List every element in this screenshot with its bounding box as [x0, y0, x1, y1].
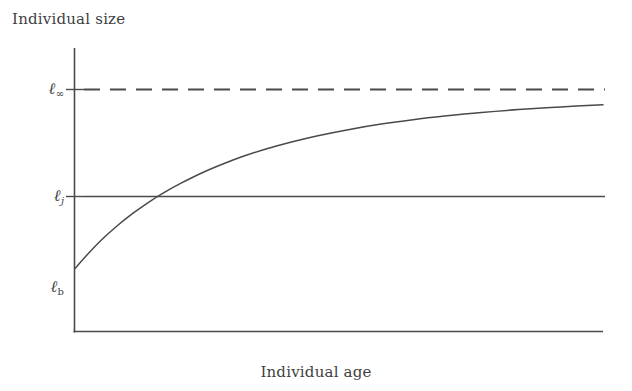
- growth-curve-figure: Individual size Individual age ℓ∞ ℓj ℓb: [0, 0, 632, 391]
- growth-curve-line: [75, 105, 603, 269]
- plot-area: [0, 0, 632, 391]
